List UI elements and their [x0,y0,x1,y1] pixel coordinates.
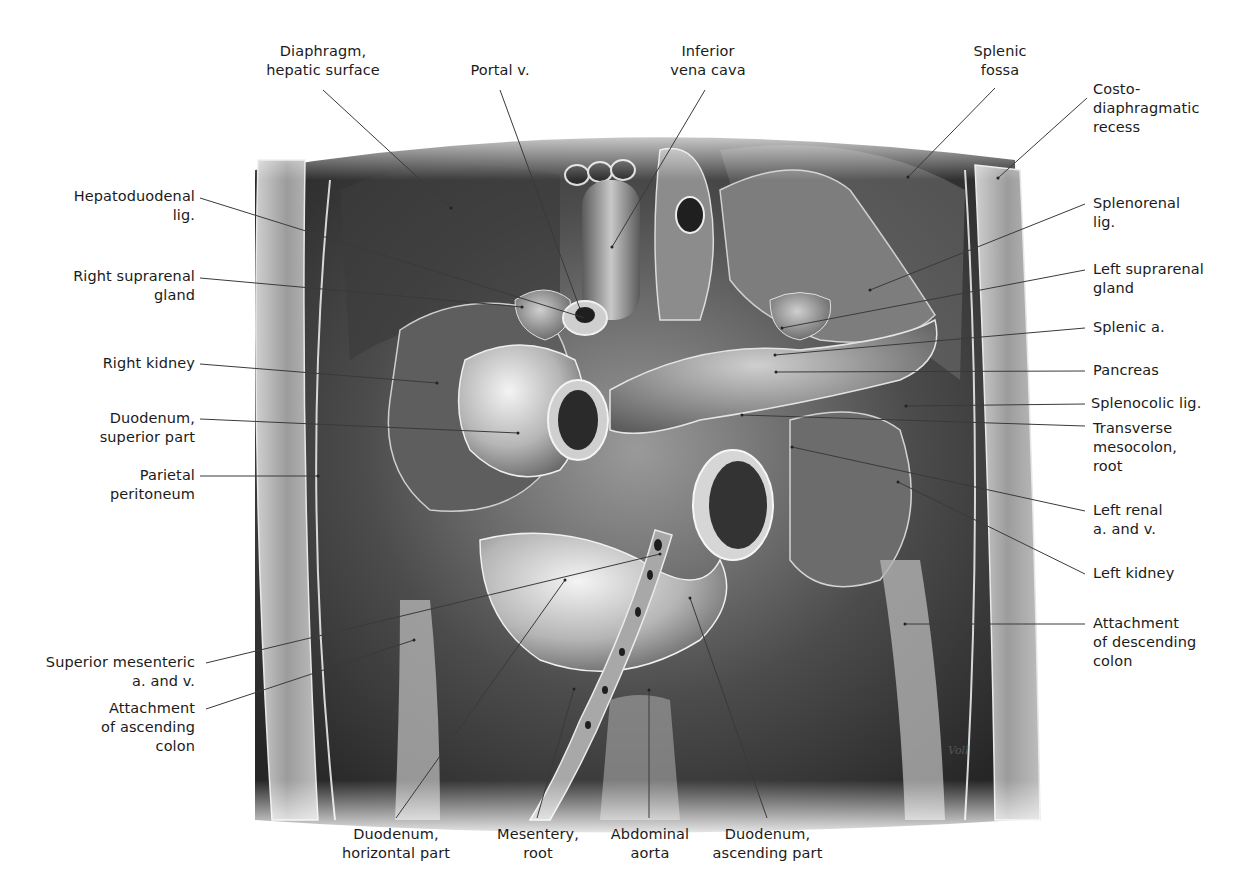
label-hepatoduodenal-lig: Hepatoduodenal lig. [74,187,195,225]
label-mesentery-root: Mesentery, root [490,825,586,863]
label-superior-mesenteric-a-v: Superior mesenteric a. and v. [46,653,195,691]
label-transverse-mesocolon-root: Transverse mesocolon, root [1093,419,1177,476]
label-parietal-peritoneum: Parietal peritoneum [110,466,195,504]
label-duodenum-superior-part: Duodenum, superior part [100,409,195,447]
label-pancreas: Pancreas [1093,361,1159,380]
label-right-suprarenal-gland: Right suprarenal gland [73,267,195,305]
label-duodenum-horizontal-part: Duodenum, horizontal part [331,825,461,863]
leader-lines [0,0,1248,894]
label-splenorenal-lig: Splenorenal lig. [1093,194,1180,232]
label-inferior-vena-cava: Inferior vena cava [658,42,758,80]
label-abdominal-aorta: Abdominal aorta [603,825,697,863]
anatomy-figure: Hepatoduodenal lig. Right suprarenal gla… [0,0,1248,894]
label-right-kidney: Right kidney [103,354,195,373]
label-splenocolic-lig: Splenocolic lig. [1091,394,1201,413]
label-splenic-a: Splenic a. [1093,318,1165,337]
label-left-suprarenal-gland: Left suprarenal gland [1093,260,1204,298]
label-attachment-ascending-colon: Attachment of ascending colon [101,699,195,756]
label-diaphragm-hepatic-surface: Diaphragm, hepatic surface [263,42,383,80]
label-portal-v: Portal v. [455,61,545,80]
label-costodiaphragmatic-recess: Costo- diaphragmatic recess [1093,80,1200,137]
label-left-kidney: Left kidney [1093,564,1174,583]
label-left-renal-a-v: Left renal a. and v. [1093,501,1163,539]
label-duodenum-ascending-part: Duodenum, ascending part [700,825,835,863]
artist-signature: Voll [948,744,969,757]
label-splenic-fossa: Splenic fossa [960,42,1040,80]
label-attachment-descending-colon: Attachment of descending colon [1093,614,1196,671]
